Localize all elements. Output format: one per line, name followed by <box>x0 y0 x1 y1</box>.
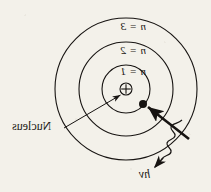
nucleus-symbol <box>120 83 132 95</box>
nucleus-label: Nucleus <box>12 120 51 132</box>
shell-label-n1: n = 1 <box>120 66 146 77</box>
photon-wave <box>162 120 182 159</box>
electron-dot <box>139 100 147 108</box>
shell-label-n2: n = 2 <box>120 45 146 56</box>
figure-canvas: n = 3 n = 2 n = 1 Nucleus hv <box>0 0 211 192</box>
electron-transition-arrow <box>148 107 189 139</box>
shell-label-n3: n = 3 <box>120 21 146 32</box>
nucleus-leader-line <box>64 95 121 128</box>
photon-label: hv <box>139 168 150 180</box>
bohr-atom-diagram <box>0 0 211 192</box>
photon-arrow <box>155 158 163 167</box>
